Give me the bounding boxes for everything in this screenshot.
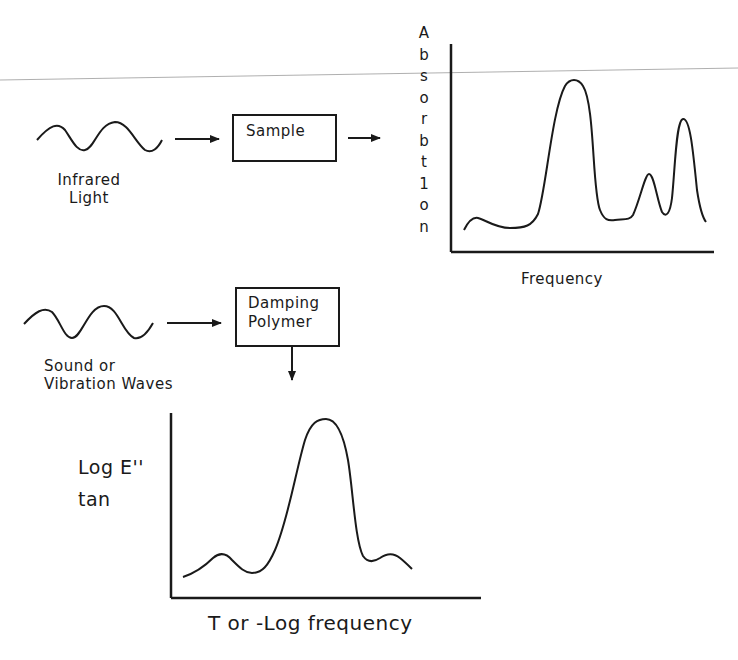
sound-wave-icon: [24, 306, 153, 338]
source-label-infrared: Infrared Light: [52, 171, 126, 207]
source-label-line2: Light: [52, 189, 126, 207]
absorption-axis-label: A b s o r b t 1 o n: [417, 23, 431, 238]
sample-box-label: Sample: [246, 122, 305, 141]
infrared-wave-icon: [37, 122, 162, 151]
scan-artifact-line: [0, 68, 738, 80]
diagram-graphics: [0, 0, 738, 660]
sample-box: Sample: [232, 114, 337, 162]
loss-axis-label: Log E'' tan: [78, 451, 144, 515]
source-label-line2: Vibration Waves: [44, 375, 173, 393]
absorption-curve: [464, 80, 706, 230]
temperature-frequency-axis-label: T or -Log frequency: [208, 611, 413, 635]
source-label-line1: Infrared: [52, 171, 126, 189]
damping-polymer-box: Damping Polymer: [235, 287, 340, 347]
loss-modulus-curve: [183, 419, 412, 577]
damping-polymer-box-label: Damping Polymer: [248, 294, 320, 332]
source-label-sound: Sound or Vibration Waves: [44, 357, 173, 393]
source-label-line1: Sound or: [44, 357, 173, 375]
frequency-axis-label: Frequency: [521, 270, 603, 288]
